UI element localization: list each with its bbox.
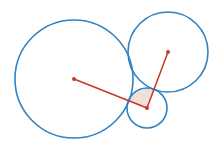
diagram-canvas bbox=[0, 0, 221, 149]
center-dot-upper bbox=[166, 50, 170, 54]
center-dot-small bbox=[145, 106, 149, 110]
center-dot-large bbox=[72, 77, 76, 81]
tangent-circles-diagram bbox=[0, 0, 221, 149]
